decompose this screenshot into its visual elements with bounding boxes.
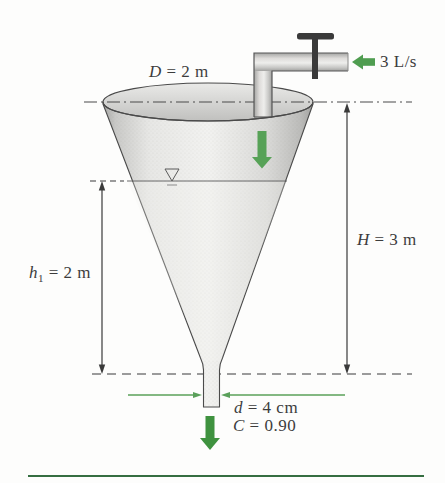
label-total-height: H = 3 m [357, 230, 417, 250]
outflow-arrow-icon [200, 416, 220, 450]
water-volume [128, 182, 286, 361]
label-inflow-rate: 3 L/s [380, 52, 417, 72]
figure-funnel-tank: D = 2 m 3 L/s H = 3 m h1 = 2 m d = 4 cm … [0, 0, 445, 483]
label-water-depth: h1 = 2 m [29, 263, 91, 283]
dimension-H [344, 103, 350, 374]
funnel-body [103, 104, 313, 407]
label-top-diameter: D = 2 m [149, 62, 209, 82]
dimension-h1 [90, 181, 124, 374]
inflow-arrow-icon [352, 55, 375, 70]
label-discharge-coefficient: C = 0.90 [233, 416, 296, 436]
label-orifice-diameter: d = 4 cm [234, 398, 298, 418]
